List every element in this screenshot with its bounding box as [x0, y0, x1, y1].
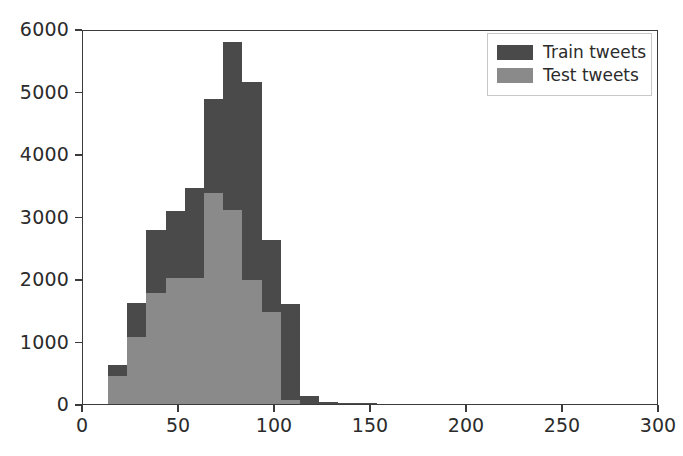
bar-test-23	[127, 337, 146, 405]
legend-label-test: Test tweets	[543, 67, 639, 84]
x-tick-mark-100	[273, 405, 275, 412]
y-tick-label-3000: 3000	[20, 208, 69, 227]
bar-test-53	[185, 278, 204, 404]
x-tick-mark-300	[657, 405, 659, 412]
legend-entry-test: Test tweets	[497, 64, 642, 87]
legend-swatch-train	[497, 45, 533, 60]
y-tick-label-1000: 1000	[20, 333, 69, 352]
legend-label-train: Train tweets	[543, 44, 646, 61]
y-tick-mark-2000	[75, 279, 82, 281]
bar-test-33	[146, 293, 165, 404]
x-tick-mark-150	[369, 405, 371, 412]
bar-test-13	[108, 376, 127, 404]
x-tick-label-150: 150	[330, 416, 410, 435]
histogram-figure: 0100020003000400050006000 05010015020025…	[0, 0, 683, 456]
bar-test-73	[223, 210, 242, 404]
legend-entry-train: Train tweets	[497, 41, 642, 64]
x-tick-mark-0	[81, 405, 83, 412]
x-tick-mark-50	[177, 405, 179, 412]
chart-legend: Train tweets Test tweets	[487, 33, 652, 96]
bar-train-113	[300, 396, 319, 404]
x-tick-label-100: 100	[234, 416, 314, 435]
bar-test-83	[242, 280, 261, 404]
bar-test-103	[281, 400, 300, 404]
bar-test-43	[166, 278, 185, 404]
x-tick-label-200: 200	[426, 416, 506, 435]
x-tick-label-0: 0	[42, 416, 122, 435]
y-tick-mark-6000	[75, 29, 82, 31]
legend-swatch-test	[497, 68, 533, 83]
y-tick-mark-1000	[75, 342, 82, 344]
y-tick-mark-5000	[75, 92, 82, 94]
bar-train-133	[338, 403, 357, 404]
x-tick-mark-250	[561, 405, 563, 412]
x-tick-label-50: 50	[138, 416, 218, 435]
bar-test-93	[262, 312, 281, 404]
x-tick-mark-200	[465, 405, 467, 412]
y-tick-label-2000: 2000	[20, 270, 69, 289]
bar-test-63	[204, 193, 223, 404]
y-tick-label-4000: 4000	[20, 145, 69, 164]
y-tick-label-5000: 5000	[20, 83, 69, 102]
y-tick-label-6000: 6000	[20, 20, 69, 39]
bar-train-103	[281, 304, 300, 404]
y-tick-mark-3000	[75, 217, 82, 219]
y-tick-label-0: 0	[57, 395, 69, 414]
bar-train-143	[358, 403, 377, 404]
x-tick-label-300: 300	[618, 416, 683, 435]
bar-train-123	[319, 402, 338, 404]
x-tick-label-250: 250	[522, 416, 602, 435]
y-tick-mark-4000	[75, 154, 82, 156]
